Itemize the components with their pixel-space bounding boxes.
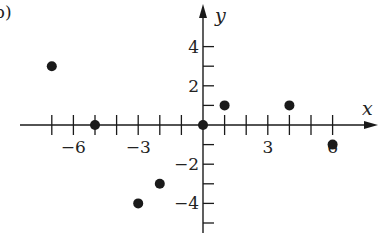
data-point (220, 100, 230, 110)
data-point (198, 120, 208, 130)
scatter-chart: b) −6−33642−2−4 x y (0, 0, 380, 233)
data-point (47, 61, 57, 71)
x-axis-label: x (362, 97, 373, 119)
data-point (90, 120, 100, 130)
x-axis-arrow-icon (364, 121, 378, 129)
data-point (155, 179, 165, 189)
data-point (133, 198, 143, 208)
y-axis-arrow-icon (199, 4, 207, 18)
y-tick-label: 2 (188, 76, 199, 96)
y-tick-label: 4 (188, 37, 199, 57)
x-tick-label: −3 (126, 137, 151, 157)
y-tick-label: −4 (174, 193, 199, 213)
x-tick-label: −6 (61, 137, 86, 157)
y-tick-label: −2 (174, 154, 199, 174)
panel-label: b) (0, 2, 12, 22)
y-axis-label: y (214, 4, 226, 26)
data-point (328, 140, 338, 150)
data-point (284, 100, 294, 110)
x-tick-label: 3 (262, 137, 273, 157)
